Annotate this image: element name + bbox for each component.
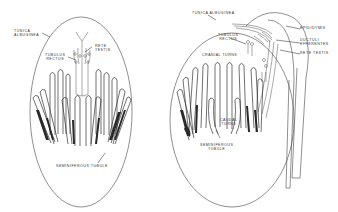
epididymis-outline xyxy=(246,13,308,178)
left-rete-testis xyxy=(74,32,91,96)
left-label-rete-testis: RETE TESTIS xyxy=(95,44,111,52)
right-seminiferous-tubules xyxy=(177,63,263,141)
left-label-tunica-albuginea: TUNICA ALBUGINEA xyxy=(14,29,39,37)
right-label-caudal-turns: CAUDAL TURNS xyxy=(220,118,238,126)
right-label-ductuli-efferentes: DUCTULI EFFERENTES xyxy=(300,38,329,46)
right-label-rete-testis: RETE TESTIS xyxy=(300,51,329,55)
left-label-seminiferous-tubule: SEMINIFEROUS TUBULE xyxy=(56,164,108,168)
right-label-caudal-line2: TURNS xyxy=(220,122,238,126)
left-label-tunica-line2: ALBUGINEA xyxy=(14,33,39,37)
right-panel xyxy=(170,13,308,207)
left-label-rete-line2: TESTIS xyxy=(95,48,111,52)
left-label-tubulus-rectus: TUBULUS RECTUS xyxy=(45,53,65,61)
right-label-tubulus-line2: RECTUS xyxy=(218,37,238,41)
diagram-canvas: TUNICA ALBUGINEA RETE TESTIS TUBULUS REC… xyxy=(0,0,338,212)
right-tubulus-rectus xyxy=(247,41,268,83)
right-label-epididymis: EPIDIDYMIS xyxy=(300,26,326,30)
right-label-tubulus-rectus: TUBULUS RECTUS xyxy=(218,33,238,41)
left-label-tubulus-line2: RECTUS xyxy=(45,57,65,61)
right-label-tunica-albuginea: TUNICA ALBUGINEA xyxy=(192,11,235,15)
right-label-cranial-turns: CRANIAL TURNS xyxy=(202,53,237,57)
right-label-ductuli-line2: EFFERENTES xyxy=(300,42,329,46)
right-label-seminiferous-tubule: SEMINIFEROUS TUBULE xyxy=(200,143,233,151)
right-label-seminiferous-line2: TUBULE xyxy=(200,147,233,151)
testis-diagram-svg xyxy=(0,0,338,212)
left-panel xyxy=(30,17,132,207)
